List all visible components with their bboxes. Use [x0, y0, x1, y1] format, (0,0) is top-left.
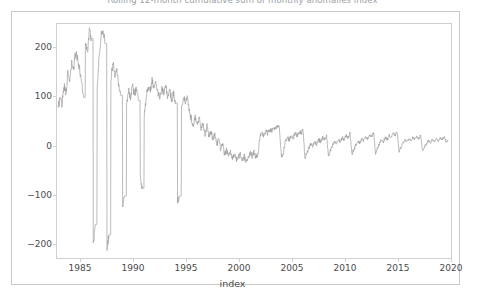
y-tick-mark-neg100: [53, 195, 56, 196]
x-tick-label-2020: 2020: [431, 263, 471, 273]
x-tick-label-2015: 2015: [378, 263, 418, 273]
x-tick-mark-2000: [239, 259, 240, 262]
plot-axes: [56, 23, 452, 259]
y-tick-mark-100: [53, 96, 56, 97]
y-tick-mark-0: [53, 146, 56, 147]
timeseries-line: [57, 24, 451, 258]
screenshot-root: Rolling 12-month cumulative sum of month…: [0, 0, 485, 307]
x-tick-mark-1995: [186, 259, 187, 262]
y-tick-label-200: 200: [18, 42, 52, 52]
y-tick-label-100: 100: [18, 91, 52, 101]
figure-title: Rolling 12-month cumulative sum of month…: [0, 0, 485, 5]
x-tick-label-2000: 2000: [219, 263, 259, 273]
x-tick-mark-2005: [292, 259, 293, 262]
x-axis-label: index: [220, 278, 246, 289]
chart-card: 200 100 0 −100 −200 1985 1990 1995: [11, 11, 460, 285]
x-tick-mark-1990: [133, 259, 134, 262]
x-tick-mark-2020: [451, 259, 452, 262]
x-tick-label-1995: 1995: [166, 263, 206, 273]
figure-title-strip: Rolling 12-month cumulative sum of month…: [0, 0, 485, 5]
x-tick-label-2010: 2010: [325, 263, 365, 273]
plot-area: [57, 24, 451, 258]
x-tick-label-2005: 2005: [272, 263, 312, 273]
y-tick-mark-200: [53, 47, 56, 48]
x-tick-label-1985: 1985: [60, 263, 100, 273]
y-tick-mark-neg200: [53, 244, 56, 245]
x-axis-label-container: index: [0, 278, 485, 289]
x-tick-label-1990: 1990: [113, 263, 153, 273]
y-tick-label-0: 0: [18, 141, 52, 151]
x-tick-mark-2010: [345, 259, 346, 262]
matplotlib-figure: 200 100 0 −100 −200 1985 1990 1995: [12, 12, 459, 284]
y-tick-label-neg200: −200: [18, 239, 52, 249]
x-tick-mark-1985: [80, 259, 81, 262]
x-tick-mark-2015: [398, 259, 399, 262]
y-tick-label-neg100: −100: [18, 190, 52, 200]
